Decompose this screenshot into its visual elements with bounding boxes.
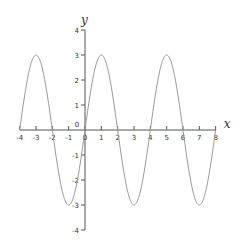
y-tick-label: 3 — [75, 52, 79, 60]
sine-chart: -4-3-2-1012345678-4-3-2-112340 x y — [0, 0, 240, 243]
y-tick-label: 2 — [75, 77, 79, 85]
y-tick-label: 4 — [75, 27, 80, 35]
y-tick-label: -1 — [72, 152, 79, 160]
y-axis-title: y — [80, 13, 88, 27]
x-axis-title: x — [224, 117, 231, 131]
axes: -4-3-2-1012345678-4-3-2-112340 — [16, 27, 218, 235]
x-tick-label: -3 — [33, 134, 40, 142]
origin-label: 0 — [75, 121, 79, 129]
x-tick-label: -2 — [49, 134, 56, 142]
x-tick-label: 7 — [197, 134, 201, 142]
x-tick-label: -1 — [65, 134, 72, 142]
x-tick-label: 5 — [164, 134, 168, 142]
y-tick-label: -4 — [72, 227, 80, 235]
y-tick-label: -3 — [72, 202, 79, 210]
x-tick-label: 3 — [132, 134, 136, 142]
y-tick-label: 1 — [75, 102, 79, 110]
x-tick-label: 1 — [99, 134, 103, 142]
x-tick-label: -4 — [16, 134, 24, 142]
